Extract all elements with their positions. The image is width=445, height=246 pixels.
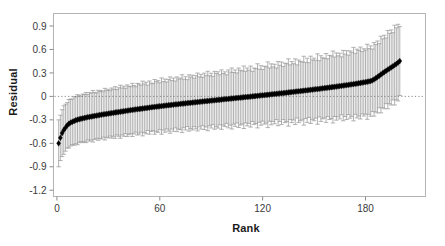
svg-text:-1.2: -1.2 xyxy=(29,185,47,196)
svg-text:0.3: 0.3 xyxy=(33,68,47,79)
svg-text:-0.6: -0.6 xyxy=(29,138,47,149)
svg-text:0: 0 xyxy=(41,91,47,102)
svg-text:180: 180 xyxy=(357,203,374,214)
svg-text:-0.3: -0.3 xyxy=(29,114,47,125)
svg-text:-0.9: -0.9 xyxy=(29,161,47,172)
y-axis-title: Residual xyxy=(7,62,19,122)
svg-text:60: 60 xyxy=(154,203,166,214)
svg-text:0.6: 0.6 xyxy=(33,44,47,55)
x-axis-title: Rank xyxy=(0,222,445,234)
svg-text:120: 120 xyxy=(254,203,271,214)
svg-text:0.9: 0.9 xyxy=(33,21,47,32)
x-axis-title-text: Rank xyxy=(232,222,260,234)
residual-rank-chart: 0.90.60.30-0.3-0.6-0.9-1.2 060120180 Res… xyxy=(0,0,445,246)
plot-canvas: 0.90.60.30-0.3-0.6-0.9-1.2 060120180 xyxy=(0,0,445,246)
svg-text:0: 0 xyxy=(54,203,60,214)
